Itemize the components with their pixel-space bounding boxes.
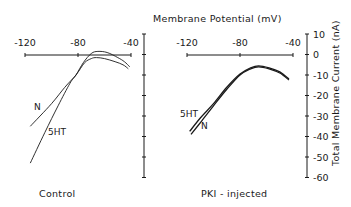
curve-control-n — [30, 58, 128, 127]
y-tick-label: 0 — [313, 49, 319, 60]
left-x-axis: -120-80-40 — [14, 37, 139, 57]
right-x-axis: -120-80-40 — [176, 37, 301, 57]
x-tick-label: -40 — [123, 37, 139, 48]
curves — [30, 51, 289, 163]
x-tick-label: -40 — [285, 37, 301, 48]
y-tick-label: -60 — [313, 172, 329, 183]
panel-caption-control: Control — [39, 188, 75, 199]
chart-title: Membrane Potential (mV) — [153, 13, 282, 24]
y-tick-label: -50 — [313, 152, 329, 163]
x-tick-label: -80 — [70, 37, 86, 48]
left-y-axis — [142, 34, 146, 178]
y-axis-label: Total Membrane Current (nA) — [330, 20, 341, 167]
x-tick-label: -80 — [232, 37, 248, 48]
right-label-5HT: 5HT — [180, 109, 198, 119]
panel-caption-pki: PKI - injected — [201, 188, 267, 199]
y-tick-label: -10 — [313, 70, 329, 81]
left-label-5HT: 5HT — [48, 127, 66, 137]
curve-control-5ht — [30, 51, 129, 163]
right-label-N: N — [201, 121, 208, 131]
y-tick-label: -30 — [313, 111, 329, 122]
y-tick-label: -20 — [313, 90, 329, 101]
y-tick-label: 10 — [313, 29, 325, 40]
right-y-axis: 100-10-20-30-40-50-60 — [305, 29, 329, 184]
left-label-N: N — [34, 102, 41, 112]
x-tick-label: -120 — [176, 37, 198, 48]
x-tick-label: -120 — [14, 37, 36, 48]
chart-figure: Membrane Potential (mV) -120-80-40 -120-… — [0, 0, 351, 207]
y-tick-label: -40 — [313, 131, 329, 142]
